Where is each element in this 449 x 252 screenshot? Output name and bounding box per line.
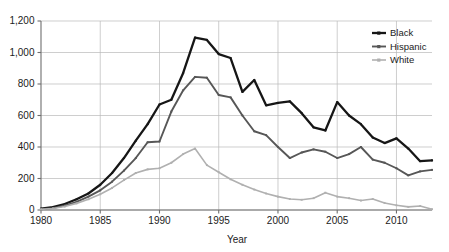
y-tick-label: 1,000 <box>9 47 34 58</box>
data-point <box>289 157 291 159</box>
data-point <box>336 101 338 103</box>
x-tick-label: 1980 <box>30 215 53 226</box>
data-point <box>419 205 421 207</box>
x-tick-label: 2010 <box>385 215 408 226</box>
data-point <box>99 184 101 186</box>
data-point <box>419 160 421 162</box>
data-point <box>253 130 255 132</box>
y-tick-label: 1,200 <box>9 15 34 26</box>
data-point <box>431 169 433 171</box>
x-tick-label: 1990 <box>148 215 171 226</box>
data-point <box>396 204 398 206</box>
data-point <box>87 193 89 195</box>
data-point <box>324 130 326 132</box>
data-point <box>372 137 374 139</box>
data-point <box>253 189 255 191</box>
legend-item-black[interactable]: Black <box>372 27 413 38</box>
y-tick-label: 0 <box>29 204 35 215</box>
legend-marker <box>377 59 380 62</box>
data-point <box>336 196 338 198</box>
data-point <box>123 170 125 172</box>
data-point <box>218 53 220 55</box>
data-point <box>64 206 66 208</box>
y-tick-label: 400 <box>18 141 35 152</box>
data-point <box>372 159 374 161</box>
data-point <box>218 171 220 173</box>
data-point <box>277 102 279 104</box>
data-point <box>230 96 232 98</box>
data-point <box>348 115 350 117</box>
data-point <box>170 111 172 113</box>
data-point <box>348 153 350 155</box>
data-point <box>384 202 386 204</box>
line-chart: 02004006008001,0001,200 1980198519901995… <box>0 0 449 252</box>
chart-legend: BlackHispanicWhite <box>372 27 427 65</box>
data-point <box>76 198 78 200</box>
data-point <box>348 197 350 199</box>
data-point <box>396 137 398 139</box>
data-point <box>123 157 125 159</box>
series-line <box>41 38 432 209</box>
x-tick-label: 2000 <box>267 215 290 226</box>
data-point <box>182 89 184 91</box>
data-point <box>407 148 409 150</box>
data-point <box>76 202 78 204</box>
x-axis-ticks: 1980198519901995200020052010 <box>30 210 408 226</box>
data-point <box>241 91 243 93</box>
data-series <box>40 37 433 211</box>
legend-label: White <box>390 54 414 65</box>
data-point <box>194 148 196 150</box>
legend-item-white[interactable]: White <box>372 54 414 65</box>
data-point <box>301 199 303 201</box>
legend-item-hispanic[interactable]: Hispanic <box>372 41 427 52</box>
data-point <box>135 140 137 142</box>
legend-label: Hispanic <box>390 41 427 52</box>
data-point <box>170 99 172 101</box>
data-point <box>265 193 267 195</box>
data-point <box>170 162 172 164</box>
data-point <box>230 57 232 59</box>
data-point <box>301 152 303 154</box>
legend-marker <box>377 45 380 48</box>
data-point <box>206 39 208 41</box>
data-point <box>206 164 208 166</box>
data-point <box>135 172 137 174</box>
y-tick-label: 800 <box>18 78 35 89</box>
x-tick-label: 2005 <box>326 215 349 226</box>
y-tick-label: 600 <box>18 110 35 121</box>
data-point <box>111 187 113 189</box>
data-point <box>99 193 101 195</box>
data-point <box>360 200 362 202</box>
data-point <box>147 168 149 170</box>
data-point <box>218 94 220 96</box>
series-line <box>41 149 432 210</box>
data-point <box>182 72 184 74</box>
data-point <box>147 123 149 125</box>
data-point <box>111 172 113 174</box>
data-point <box>194 76 196 78</box>
data-point <box>135 157 137 159</box>
data-point <box>159 141 161 143</box>
chart-canvas: 02004006008001,0001,200 1980198519901995… <box>0 0 449 252</box>
data-point <box>111 181 113 183</box>
data-point <box>147 141 149 143</box>
data-point <box>289 100 291 102</box>
data-point <box>40 208 42 210</box>
data-point <box>253 79 255 81</box>
data-point <box>372 198 374 200</box>
series-white <box>40 148 433 211</box>
data-point <box>241 115 243 117</box>
data-point <box>52 207 54 209</box>
data-point <box>324 192 326 194</box>
data-point <box>265 134 267 136</box>
y-axis-ticks: 02004006008001,0001,200 <box>9 15 41 215</box>
data-point <box>277 146 279 148</box>
data-point <box>313 148 315 150</box>
data-point <box>159 104 161 106</box>
data-point <box>206 77 208 79</box>
data-point <box>99 189 101 191</box>
data-point <box>396 167 398 169</box>
x-axis-title: Year <box>227 234 248 245</box>
data-point <box>289 198 291 200</box>
data-point <box>194 37 196 39</box>
